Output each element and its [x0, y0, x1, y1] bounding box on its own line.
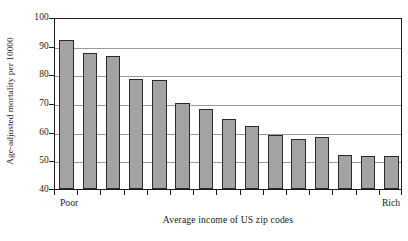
x-axis-label-rich: Rich	[382, 196, 400, 210]
x-axis-label-poor: Poor	[60, 196, 78, 210]
y-axis-tick-label: 60	[39, 128, 49, 137]
y-axis-tick-label: 50	[39, 157, 49, 166]
bar	[152, 80, 166, 189]
y-axis-title: Age-adjusted mortality per 10000	[2, 6, 18, 196]
x-axis-tick-mark	[216, 190, 217, 195]
x-axis-tick-mark	[77, 190, 78, 195]
plot-area	[54, 18, 402, 190]
bar	[361, 156, 375, 189]
y-axis-tick-label: 80	[39, 71, 49, 80]
x-axis-tick-mark	[100, 190, 101, 195]
x-axis-tick-mark	[286, 190, 287, 195]
x-axis-tick-mark	[240, 190, 241, 195]
x-axis-tick-mark	[379, 190, 380, 195]
bar	[199, 109, 213, 189]
y-axis-tick-label: 90	[39, 42, 49, 51]
x-axis-endpoint-labels: Poor Rich	[54, 196, 402, 210]
bar	[338, 155, 352, 189]
bar	[245, 126, 259, 189]
x-axis-tick-mark	[54, 190, 55, 195]
x-axis-tick-mark	[401, 190, 402, 195]
x-axis-tick-mark	[147, 190, 148, 195]
x-axis-tick-mark	[263, 190, 264, 195]
bar	[59, 40, 73, 189]
bar	[268, 135, 282, 189]
bar	[222, 119, 236, 189]
x-axis-tick-mark	[356, 190, 357, 195]
x-axis-title: Average income of US zip codes	[54, 214, 402, 226]
bar	[315, 137, 329, 189]
bar-chart-figure: Age-adjusted mortality per 10000 4050607…	[0, 0, 408, 241]
bar	[175, 103, 189, 189]
x-axis-tick-mark	[124, 190, 125, 195]
bar	[291, 139, 305, 189]
y-axis-tick-label: 70	[39, 99, 49, 108]
x-axis-tick-mark	[193, 190, 194, 195]
bar	[384, 156, 398, 189]
x-axis-tick-marks	[54, 190, 402, 195]
bar-series	[55, 19, 401, 189]
x-axis-tick-mark	[332, 190, 333, 195]
bar	[83, 53, 97, 189]
y-axis-tick-label: 40	[39, 185, 49, 194]
bar	[129, 79, 143, 189]
bar	[106, 56, 120, 189]
x-axis-tick-mark	[309, 190, 310, 195]
y-axis-tick-label: 100	[34, 13, 49, 22]
x-axis-tick-mark	[170, 190, 171, 195]
